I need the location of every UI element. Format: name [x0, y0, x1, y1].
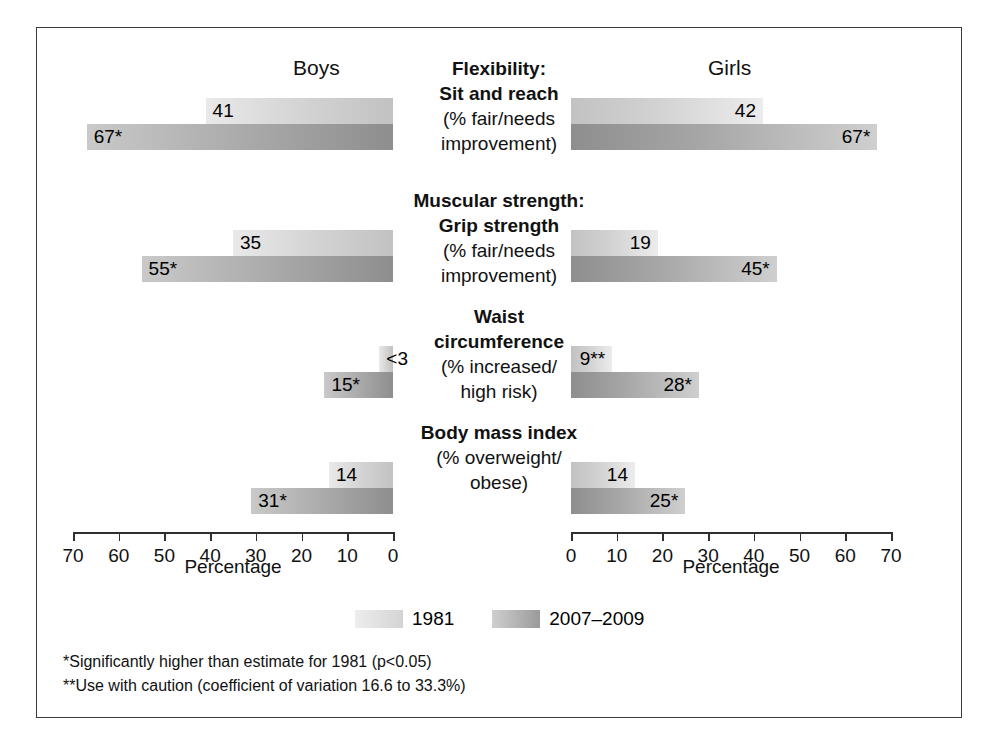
legend-label-2007-2009: 2007–2009 — [549, 608, 644, 630]
axis-tick-right-60 — [845, 532, 847, 541]
legend-item-2007-2009: 2007–2009 — [492, 608, 644, 630]
axis-tick-right-0 — [571, 532, 573, 541]
bar-girls-2007-2009-row1 — [571, 124, 877, 150]
axis-tick-label-right-60: 60 — [825, 545, 865, 567]
bar-value-girls-1981-row1: 42 — [735, 98, 756, 124]
axis-tick-left-0 — [393, 532, 395, 541]
axis-tick-label-left-0: 0 — [373, 545, 413, 567]
row-label-bold-line: Body mass index — [374, 420, 624, 445]
axis-tick-right-50 — [800, 532, 802, 541]
bar-value-boys-1981-row3: <3 — [386, 346, 408, 372]
axis-tick-label-left-70: 70 — [53, 545, 93, 567]
bar-value-girls-2007-2009-row4: 25* — [650, 488, 679, 514]
bar-value-boys-1981-row4: 14 — [336, 462, 357, 488]
bar-value-girls-2007-2009-row1: 67* — [842, 124, 871, 150]
axis-line-left — [73, 532, 393, 534]
axis-tick-label-right-70: 70 — [871, 545, 911, 567]
bar-value-boys-2007-2009-row2: 55* — [149, 256, 178, 282]
legend-swatch-1981 — [355, 610, 403, 628]
axis-tick-right-40 — [754, 532, 756, 541]
panel-title-boys: Boys — [293, 56, 340, 80]
bar-value-boys-2007-2009-row3: 15* — [331, 372, 360, 398]
axis-tick-left-20 — [302, 532, 304, 541]
bar-value-boys-2007-2009-row4: 31* — [258, 488, 287, 514]
footnote-caution: **Use with caution (coefficient of varia… — [63, 674, 466, 698]
axis-tick-right-20 — [662, 532, 664, 541]
axis-tick-left-40 — [210, 532, 212, 541]
axis-tick-left-10 — [347, 532, 349, 541]
row-label-bold-line: Flexibility: — [374, 56, 624, 81]
bar-value-girls-1981-row2: 19 — [630, 230, 651, 256]
axis-line-right — [571, 532, 891, 534]
footnote-significance: *Significantly higher than estimate for … — [63, 650, 466, 674]
bar-value-boys-1981-row1: 41 — [213, 98, 234, 124]
legend: 1981 2007–2009 — [355, 608, 672, 630]
legend-item-1981: 1981 — [355, 608, 454, 630]
axis-tick-right-30 — [708, 532, 710, 541]
axis-tick-label-right-0: 0 — [551, 545, 591, 567]
axis-tick-left-30 — [256, 532, 258, 541]
axis-tick-left-60 — [119, 532, 121, 541]
legend-swatch-2007-2009 — [492, 610, 540, 628]
bar-value-girls-2007-2009-row3: 28* — [663, 372, 692, 398]
panel-title-girls: Girls — [708, 56, 751, 80]
figure-frame: Boys Girls Flexibility:Sit and reach(% f… — [36, 27, 962, 718]
bar-value-girls-2007-2009-row2: 45* — [741, 256, 770, 282]
bar-value-girls-1981-row3: 9** — [580, 346, 605, 372]
row-label-bold-line: Muscular strength: — [374, 188, 624, 213]
bar-value-girls-1981-row4: 14 — [607, 462, 628, 488]
bar-boys-2007-2009-row2 — [142, 256, 393, 282]
axis-tick-right-10 — [617, 532, 619, 541]
legend-label-1981: 1981 — [412, 608, 454, 630]
bar-value-boys-2007-2009-row1: 67* — [94, 124, 123, 150]
axis-tick-right-70 — [891, 532, 893, 541]
axis-tick-left-50 — [164, 532, 166, 541]
axis-title-left: Percentage — [133, 556, 333, 578]
bar-boys-2007-2009-row1 — [87, 124, 393, 150]
axis-title-right: Percentage — [631, 556, 831, 578]
bar-value-boys-1981-row2: 35 — [240, 230, 261, 256]
axis-tick-left-70 — [73, 532, 75, 541]
footnote-group: *Significantly higher than estimate for … — [63, 650, 466, 698]
row-label-bold-line: Waist — [374, 304, 624, 329]
axis-tick-label-left-10: 10 — [327, 545, 367, 567]
